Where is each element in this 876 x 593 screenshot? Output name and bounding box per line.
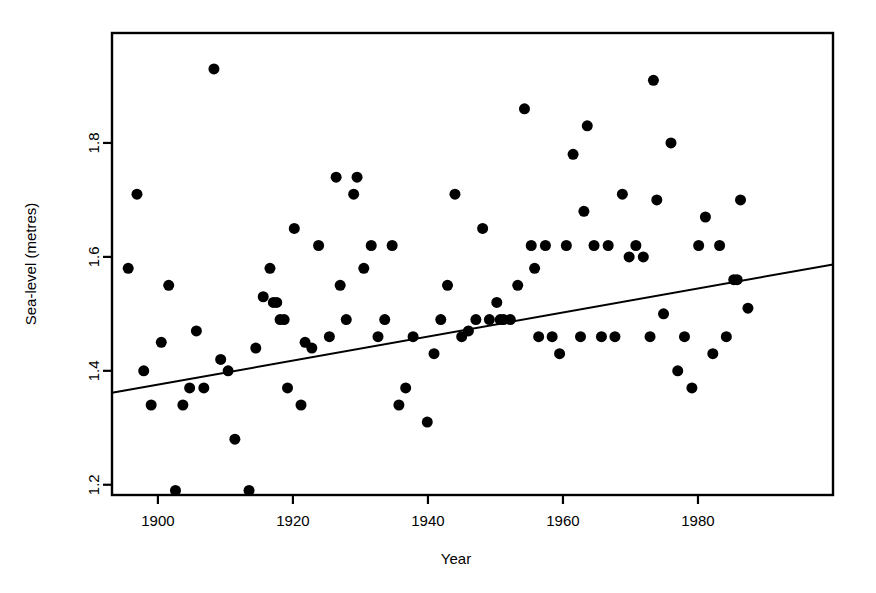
x-axis-title: Year bbox=[441, 550, 471, 567]
scatter-point bbox=[313, 240, 324, 251]
scatter-point bbox=[331, 172, 342, 183]
y-tick-label: 1.8 bbox=[86, 133, 103, 154]
scatter-point bbox=[707, 348, 718, 359]
scatter-point bbox=[609, 331, 620, 342]
y-tick-label: 1.6 bbox=[86, 246, 103, 267]
scatter-point bbox=[393, 399, 404, 410]
scatter-point bbox=[156, 337, 167, 348]
scatter-point bbox=[341, 314, 352, 325]
x-axis-ticks: 19001920194019601980 bbox=[141, 495, 714, 529]
scatter-point bbox=[526, 240, 537, 251]
scatter-point bbox=[732, 274, 743, 285]
scatter-point bbox=[589, 240, 600, 251]
scatter-point bbox=[264, 263, 275, 274]
scatter-point bbox=[578, 206, 589, 217]
scatter-point bbox=[742, 303, 753, 314]
scatter-point bbox=[617, 189, 628, 200]
scatter-point bbox=[648, 75, 659, 86]
y-axis-title: Sea-level (metres) bbox=[22, 203, 39, 326]
scatter-point bbox=[533, 331, 544, 342]
scatter-point bbox=[491, 297, 502, 308]
scatter-point bbox=[177, 399, 188, 410]
scatter-point bbox=[244, 485, 255, 496]
scatter-point bbox=[184, 382, 195, 393]
scatter-point bbox=[258, 291, 269, 302]
scatter-point bbox=[250, 343, 261, 354]
scatter-point bbox=[208, 63, 219, 74]
scatter-point bbox=[435, 314, 446, 325]
scatter-point bbox=[624, 251, 635, 262]
scatter-point bbox=[721, 331, 732, 342]
regression-trend-line bbox=[112, 264, 833, 392]
scatter-point bbox=[582, 120, 593, 131]
scatter-point bbox=[735, 194, 746, 205]
scatter-point bbox=[289, 223, 300, 234]
scatter-point bbox=[271, 297, 282, 308]
scatter-point bbox=[470, 314, 481, 325]
scatter-point bbox=[422, 417, 433, 428]
x-tick-label: 1980 bbox=[681, 512, 714, 529]
scatter-point bbox=[131, 189, 142, 200]
scatter-point bbox=[348, 189, 359, 200]
scatter-point bbox=[282, 382, 293, 393]
scatter-point bbox=[123, 263, 134, 274]
scatter-point bbox=[554, 348, 565, 359]
scatter-point bbox=[547, 331, 558, 342]
scatter-point bbox=[372, 331, 383, 342]
scatter-point bbox=[229, 434, 240, 445]
y-tick-label: 1.4 bbox=[86, 360, 103, 381]
scatter-point bbox=[679, 331, 690, 342]
scatter-point bbox=[603, 240, 614, 251]
scatter-point bbox=[198, 382, 209, 393]
scatter-point bbox=[638, 251, 649, 262]
scatter-point bbox=[700, 212, 711, 223]
scatter-point bbox=[279, 314, 290, 325]
scatter-point bbox=[651, 194, 662, 205]
scatter-point bbox=[512, 280, 523, 291]
scatter-point bbox=[352, 172, 363, 183]
scatter-point bbox=[429, 348, 440, 359]
figure-canvas: 19001920194019601980 1.21.41.61.8 Year S… bbox=[0, 0, 876, 593]
scatter-point bbox=[146, 399, 157, 410]
scatter-point bbox=[714, 240, 725, 251]
scatter-point bbox=[306, 343, 317, 354]
x-tick-label: 1940 bbox=[411, 512, 444, 529]
scatter-point bbox=[658, 308, 669, 319]
scatter-point bbox=[630, 240, 641, 251]
scatter-point bbox=[529, 263, 540, 274]
scatter-point bbox=[693, 240, 704, 251]
y-tick-label: 1.2 bbox=[86, 474, 103, 495]
scatter-point bbox=[335, 280, 346, 291]
scatter-point bbox=[645, 331, 656, 342]
x-tick-label: 1900 bbox=[141, 512, 174, 529]
scatter-point bbox=[379, 314, 390, 325]
scatter-point bbox=[163, 280, 174, 291]
scatter-point bbox=[138, 365, 149, 376]
scatter-point bbox=[540, 240, 551, 251]
scatter-point bbox=[170, 485, 181, 496]
scatter-plot: 19001920194019601980 1.21.41.61.8 Year S… bbox=[0, 0, 876, 593]
scatter-point bbox=[596, 331, 607, 342]
scatter-point bbox=[519, 103, 530, 114]
scatter-point bbox=[561, 240, 572, 251]
scatter-point bbox=[477, 223, 488, 234]
scatter-point bbox=[400, 382, 411, 393]
scatter-point bbox=[665, 137, 676, 148]
scatter-point bbox=[484, 314, 495, 325]
scatter-point bbox=[366, 240, 377, 251]
scatter-point bbox=[387, 240, 398, 251]
scatter-point bbox=[449, 189, 460, 200]
scatter-point bbox=[215, 354, 226, 365]
scatter-point bbox=[296, 399, 307, 410]
scatter-point bbox=[324, 331, 335, 342]
x-tick-label: 1960 bbox=[546, 512, 579, 529]
scatter-point bbox=[686, 382, 697, 393]
scatter-point bbox=[442, 280, 453, 291]
scatter-point bbox=[672, 365, 683, 376]
scatter-points-group bbox=[123, 63, 754, 496]
scatter-point bbox=[358, 263, 369, 274]
x-tick-label: 1920 bbox=[276, 512, 309, 529]
y-axis-ticks: 1.21.41.61.8 bbox=[86, 133, 113, 496]
scatter-point bbox=[575, 331, 586, 342]
scatter-point bbox=[568, 149, 579, 160]
